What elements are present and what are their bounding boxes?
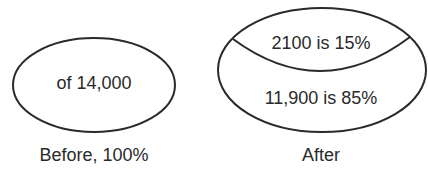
- after-caption: After: [302, 146, 340, 164]
- before-caption: Before, 100%: [39, 146, 148, 164]
- after-top-segment-label: 2100 is 15%: [271, 34, 370, 52]
- before-inner-label: of 14,000: [56, 74, 131, 92]
- after-bottom-segment-label: 11,900 is 85%: [265, 89, 378, 107]
